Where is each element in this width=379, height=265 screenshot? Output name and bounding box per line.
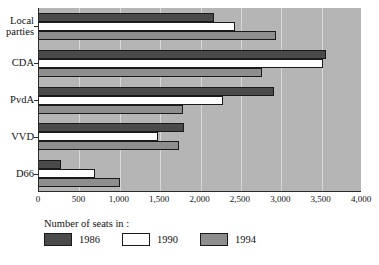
bar xyxy=(39,160,61,169)
legend-swatch xyxy=(200,233,228,246)
bar xyxy=(39,31,276,40)
x-tick-label: 1,000 xyxy=(109,194,129,204)
bar xyxy=(39,178,120,187)
x-tick-label: 500 xyxy=(72,194,86,204)
x-tick-label: 3,500 xyxy=(311,194,331,204)
category-label: D66 xyxy=(0,168,34,180)
legend-item: 1986 xyxy=(44,233,100,246)
legend: Number of seats in : 198619901994 xyxy=(44,218,344,246)
bar xyxy=(39,87,274,96)
legend-item: 1994 xyxy=(200,233,256,246)
category-label-line: D66 xyxy=(0,168,34,180)
bar xyxy=(39,13,214,22)
category-label: VVD xyxy=(0,131,34,143)
bar xyxy=(39,59,323,68)
plot-area xyxy=(38,8,361,192)
category-label: Localparties xyxy=(0,15,34,38)
category-label-line: VVD xyxy=(0,131,34,143)
x-tick-label: 3,000 xyxy=(270,194,290,204)
gridline xyxy=(281,8,282,191)
gridline xyxy=(322,8,323,191)
category-label-line: PvdA xyxy=(0,94,34,106)
category-label-line: Local xyxy=(0,15,34,27)
bar-chart: LocalpartiesCDAPvdAVVDD66 05001,0001,500… xyxy=(0,0,379,265)
bar xyxy=(39,123,184,132)
legend-item: 1990 xyxy=(122,233,178,246)
legend-label: 1986 xyxy=(79,234,100,245)
x-tick-label: 2,500 xyxy=(230,194,250,204)
bar xyxy=(39,169,95,178)
bar xyxy=(39,105,183,114)
bar xyxy=(39,50,326,59)
bar xyxy=(39,96,223,105)
legend-label: 1994 xyxy=(235,234,256,245)
bar xyxy=(39,68,262,77)
bar xyxy=(39,22,235,31)
category-label: PvdA xyxy=(0,94,34,106)
x-tick-label: 2,000 xyxy=(189,194,209,204)
category-label: CDA xyxy=(0,57,34,69)
bar xyxy=(39,132,158,141)
x-tick-label: 1,500 xyxy=(149,194,169,204)
x-tick-label: 4,000 xyxy=(351,194,371,204)
legend-swatch xyxy=(44,233,72,246)
legend-swatch xyxy=(122,233,150,246)
category-label-line: CDA xyxy=(0,57,34,69)
category-label-line: parties xyxy=(0,26,34,38)
legend-title: Number of seats in : xyxy=(44,218,344,229)
x-tick-label: 0 xyxy=(36,194,41,204)
legend-label: 1990 xyxy=(157,234,178,245)
bar xyxy=(39,141,179,150)
legend-items: 198619901994 xyxy=(44,233,344,246)
